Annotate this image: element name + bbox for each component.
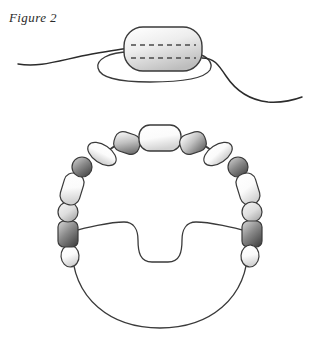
bead-upper-left-1 [112, 129, 143, 156]
dna-right-tail [202, 58, 302, 102]
bead-right-2 [234, 171, 262, 207]
figure-canvas [0, 0, 312, 346]
bead-left-4 [58, 221, 78, 247]
bead-right-5 [240, 244, 260, 267]
chromatin-ring-panel [58, 125, 262, 328]
dna-notched-loop [72, 222, 248, 328]
bead-top-center [139, 125, 181, 151]
nucleosome-panel [18, 27, 302, 102]
nucleosome-core [124, 27, 202, 71]
bead-left-1 [72, 157, 92, 177]
figure-root: Figure 2 [0, 0, 312, 346]
dna-left-tail [18, 48, 130, 65]
figure-caption: Figure 2 [9, 10, 57, 26]
bead-right-3 [242, 202, 262, 222]
bead-upper-right-1 [178, 129, 209, 156]
bead-left-5 [60, 244, 80, 267]
bead-right-4 [242, 221, 262, 247]
